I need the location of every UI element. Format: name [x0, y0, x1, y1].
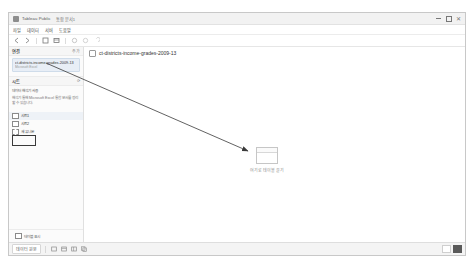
sheet-item-2[interactable]: 시트2	[9, 120, 83, 128]
show-tables-label: 테이블 표시	[24, 234, 40, 239]
new-union-label: 새 유니온	[21, 129, 34, 134]
help-line-1: 데이터 해석기 사용	[12, 89, 80, 94]
refresh-sheets-button[interactable]: ⟳	[77, 78, 80, 83]
window-title: Tableau Public	[22, 16, 51, 21]
close-button[interactable]: ✕	[454, 14, 463, 23]
statusbar-chip-1[interactable]	[442, 245, 451, 253]
statusbar-chip-2[interactable]	[453, 245, 462, 253]
breadcrumb-label: ct-districts-income-grades-2009-13	[99, 50, 176, 56]
menu-bar: 파일 데이터 서버 도움말	[9, 25, 465, 35]
connection-type: Microsoft Excel	[15, 65, 77, 69]
breadcrumb: ct-districts-income-grades-2009-13	[84, 47, 465, 59]
sheet-item-label: 시트2	[21, 121, 29, 126]
union-icon	[12, 129, 19, 135]
sheets-section: 시트 ⟳ 데이터 해석기 사용 해석기 통해 Microsoft Excel 통…	[9, 76, 83, 136]
sheet-item-label: 시트1	[21, 113, 29, 118]
table-icon	[15, 233, 22, 239]
connections-list: ct-districts-income-grades-2009-13 Micro…	[9, 56, 83, 74]
menu-item-server[interactable]: 서버	[45, 27, 53, 33]
connection-item[interactable]: ct-districts-income-grades-2009-13 Micro…	[12, 58, 80, 72]
application-window: Tableau Public 통합 문서1 ✕ 파일 데이터 서버 도움말	[8, 12, 466, 256]
window-subtitle: 통합 문서1	[56, 16, 76, 22]
main-body: 연결 추가 ct-districts-income-grades-2009-13…	[9, 47, 465, 242]
minimize-button[interactable]	[434, 14, 443, 23]
right-pane: ct-districts-income-grades-2009-13 여기	[84, 47, 465, 242]
sheets-title: 시트	[12, 78, 20, 84]
add-connection-button[interactable]: 추가	[72, 48, 80, 54]
sheets-header: 시트 ⟳	[9, 77, 83, 86]
menu-item-file[interactable]: 파일	[13, 27, 21, 33]
connection-name: ct-districts-income-grades-2009-13	[15, 61, 77, 65]
connections-header: 연결 추가	[9, 47, 83, 56]
help-line-2: 해석기 통해 Microsoft Excel 통합 문서를 정리할 수 있습니다…	[12, 96, 80, 107]
close-icon: ✕	[456, 16, 461, 22]
toolbar	[9, 35, 465, 47]
save-button[interactable]	[42, 37, 49, 44]
app-logo-icon	[13, 16, 19, 22]
title-bar: Tableau Public 통합 문서1 ✕	[9, 13, 465, 25]
pause-button[interactable]	[82, 37, 89, 44]
minimize-icon	[436, 18, 441, 19]
statusbar-separator	[45, 246, 46, 253]
left-pane: 연결 추가 ct-districts-income-grades-2009-13…	[9, 47, 84, 242]
menu-item-help[interactable]: 도움말	[59, 27, 71, 33]
new-worksheet-button[interactable]	[50, 246, 57, 253]
statusbar-right-group	[442, 245, 462, 253]
sheet-icon	[12, 113, 19, 119]
table-dropzone[interactable]: 여기로 테이블 끌기	[256, 147, 278, 164]
connections-title: 연결	[12, 48, 20, 54]
status-bar: 데이터 원본	[9, 242, 465, 255]
dropzone-caption: 여기로 테이블 끌기	[250, 167, 284, 173]
back-button[interactable]	[13, 37, 20, 44]
left-pane-footer: 테이블 표시	[9, 229, 83, 242]
dropzone-box	[256, 147, 278, 164]
data-interpreter-help: 데이터 해석기 사용 해석기 통해 Microsoft Excel 통합 문서를…	[9, 86, 83, 112]
refresh-button[interactable]	[71, 37, 78, 44]
menu-item-data[interactable]: 데이터	[27, 27, 39, 33]
dropzone-header-bar	[257, 148, 277, 153]
new-dashboard-button[interactable]	[60, 246, 67, 253]
drag-origin-highlight	[12, 135, 36, 146]
toolbar-separator-2	[65, 38, 66, 44]
maximize-icon	[446, 16, 452, 22]
new-data-source-button[interactable]	[53, 37, 60, 44]
forward-button[interactable]	[24, 37, 31, 44]
sheet-icon	[12, 121, 19, 127]
toolbar-separator	[36, 38, 37, 44]
duplicate-sheet-button[interactable]	[80, 246, 87, 253]
undo-button[interactable]	[93, 37, 100, 44]
data-source-tab[interactable]: 데이터 원본	[12, 244, 41, 254]
show-tables-item[interactable]: 테이블 표시	[12, 232, 80, 240]
canvas-area[interactable]: 여기로 테이블 끌기	[84, 59, 465, 242]
sheet-item-1[interactable]: 시트1	[9, 112, 83, 120]
datasource-icon	[89, 50, 96, 57]
new-story-button[interactable]	[70, 246, 77, 253]
maximize-button[interactable]	[444, 14, 453, 23]
